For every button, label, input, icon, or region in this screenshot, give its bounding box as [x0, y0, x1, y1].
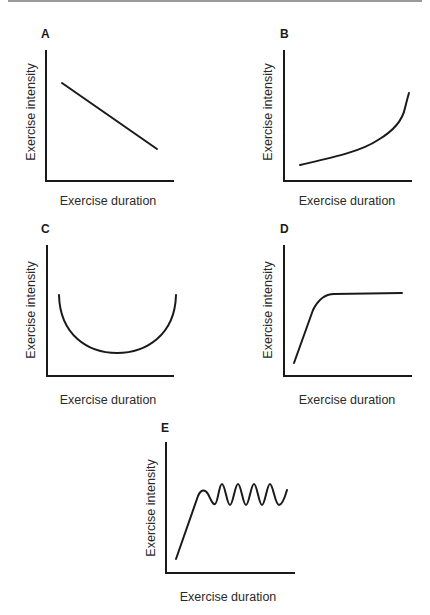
- panel-letter: A: [41, 27, 50, 41]
- axes: [284, 246, 411, 376]
- x-axis-label: Exercise duration: [60, 393, 157, 407]
- curve-end-spurt: [300, 93, 409, 165]
- panel-a: A Exercise duration Exercise intensity: [24, 27, 173, 208]
- axes: [47, 246, 173, 376]
- curve-oscillating-plateau: [176, 484, 287, 559]
- y-axis-label: Exercise intensity: [144, 459, 158, 557]
- panel-e: E Exercise duration Exercise intensity: [144, 421, 294, 604]
- panel-b: B Exercise duration Exercise intensity: [261, 27, 411, 208]
- y-axis-label: Exercise intensity: [261, 63, 275, 161]
- x-axis-label: Exercise duration: [180, 590, 277, 604]
- panel-letter: E: [161, 421, 169, 435]
- figure: A Exercise duration Exercise intensity B…: [0, 0, 430, 615]
- panel-letter: C: [41, 222, 50, 236]
- y-axis-label: Exercise intensity: [261, 261, 275, 359]
- curve-linear-decrease: [62, 83, 157, 149]
- y-axis-label: Exercise intensity: [24, 63, 38, 161]
- panel-d: D Exercise duration Exercise intensity: [261, 222, 411, 407]
- axes: [166, 443, 294, 573]
- x-axis-label: Exercise duration: [60, 194, 157, 208]
- panel-letter: D: [280, 222, 289, 236]
- panel-c: C Exercise duration Exercise intensity: [24, 222, 176, 407]
- x-axis-label: Exercise duration: [299, 194, 396, 208]
- x-axis-label: Exercise duration: [299, 393, 396, 407]
- curve-rise-plateau: [294, 293, 402, 363]
- y-axis-label: Exercise intensity: [24, 261, 38, 359]
- axes: [284, 51, 411, 181]
- panel-letter: B: [280, 27, 289, 41]
- curve-u-shape: [59, 295, 176, 353]
